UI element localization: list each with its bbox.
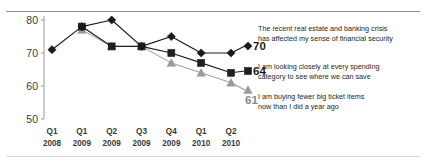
legend-label-line-2: has affected my sense of financial secur… <box>258 34 426 44</box>
legend-item-spending-category: I am looking closely at every spending c… <box>258 62 426 82</box>
x-tick-label-quarter: Q2 <box>226 127 237 136</box>
triangle-marker <box>227 79 235 87</box>
series-line-2 <box>82 27 231 73</box>
x-tick-label-quarter: Q1 <box>47 127 58 136</box>
series-line-3 <box>82 30 231 83</box>
diamond-marker <box>197 49 205 57</box>
x-tick-label-quarter: Q1 <box>196 127 207 136</box>
x-tick-label-year: 2010 <box>222 139 241 148</box>
x-tick-label-year: 2008 <box>43 139 62 148</box>
legend-label-line-2: now than I did a year ago <box>258 102 426 112</box>
diamond-marker <box>227 49 235 57</box>
x-tick-label-year: 2009 <box>73 139 92 148</box>
chart-figure: 80706050Q12008Q12009Q22009Q32009Q42009Q1… <box>0 0 426 164</box>
triangle-marker <box>197 69 205 77</box>
y-tick-label: 50 <box>26 113 38 125</box>
x-tick-label-quarter: Q2 <box>106 127 117 136</box>
square-marker <box>198 59 205 66</box>
square-marker <box>168 50 175 57</box>
legend-end-value-3: 61 <box>245 94 258 106</box>
legend-label-line-1: I am buying fewer big ticket items <box>258 92 426 102</box>
x-tick-label-quarter: Q3 <box>136 127 147 136</box>
y-tick-label: 60 <box>26 80 38 92</box>
triangle-marker <box>167 59 175 67</box>
y-tick-label: 70 <box>26 47 38 59</box>
square-marker <box>228 69 235 76</box>
legend-item-big-ticket-items: I am buying fewer big ticket items now t… <box>258 92 426 112</box>
y-tick-label: 80 <box>26 14 38 26</box>
legend-diamond-marker <box>244 42 252 50</box>
diamond-marker <box>167 32 175 40</box>
legend-label-line-2: category to see where we can save <box>258 72 426 82</box>
legend-item-financial-security: The recent real estate and banking crisi… <box>258 24 426 44</box>
legend-label-line-1: The recent real estate and banking crisi… <box>258 24 426 34</box>
x-tick-label-year: 2009 <box>162 139 181 148</box>
square-marker <box>108 43 115 50</box>
legend-square-marker <box>245 68 252 75</box>
x-tick-label-year: 2009 <box>132 139 151 148</box>
x-tick-label-quarter: Q1 <box>76 127 87 136</box>
x-tick-label-quarter: Q4 <box>166 127 177 136</box>
legend-label-line-1: I am looking closely at every spending <box>258 62 426 72</box>
x-tick-label-year: 2009 <box>103 139 122 148</box>
x-tick-label-year: 2010 <box>192 139 211 148</box>
